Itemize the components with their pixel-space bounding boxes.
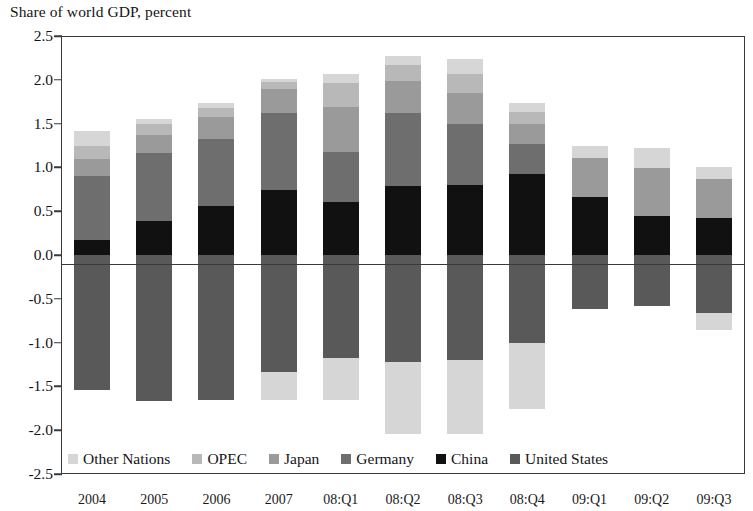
- legend-item[interactable]: Other Nations: [68, 450, 170, 468]
- bar-segment[interactable]: [323, 107, 359, 152]
- bar-segment[interactable]: [323, 83, 359, 107]
- legend-swatch-icon: [341, 454, 351, 464]
- bar-segment[interactable]: [509, 144, 545, 174]
- bar-segment[interactable]: [74, 131, 110, 146]
- x-axis-tick-label: 08:Q4: [510, 492, 545, 508]
- legend-item[interactable]: China: [436, 450, 488, 468]
- legend-item[interactable]: United States: [510, 450, 608, 468]
- legend-label: China: [451, 450, 488, 468]
- x-axis-tick-label: 08:Q2: [386, 492, 421, 508]
- bar-group[interactable]: [136, 36, 172, 474]
- chart-figure: Share of world GDP, percent 2.52.01.51.0…: [0, 0, 753, 511]
- bar-segment[interactable]: [136, 153, 172, 220]
- bar-segment[interactable]: [447, 93, 483, 124]
- legend-item[interactable]: OPEC: [192, 450, 247, 468]
- bar-segment[interactable]: [261, 255, 297, 372]
- bar-segment[interactable]: [136, 119, 172, 124]
- y-axis-tick-label: -1.5: [7, 377, 53, 395]
- bar-segment[interactable]: [198, 139, 234, 206]
- bar-segment[interactable]: [447, 255, 483, 360]
- bar-segment[interactable]: [323, 202, 359, 255]
- bar-segment[interactable]: [385, 81, 421, 113]
- chart-legend: Other NationsOPECJapanGermanyChinaUnited…: [68, 448, 630, 470]
- x-axis-tick-label: 2004: [78, 492, 106, 508]
- bar-segment[interactable]: [74, 255, 110, 390]
- bar-segment[interactable]: [74, 159, 110, 177]
- bar-group[interactable]: [696, 36, 732, 474]
- bar-group[interactable]: [261, 36, 297, 474]
- legend-item[interactable]: Germany: [341, 450, 414, 468]
- bar-segment[interactable]: [447, 124, 483, 185]
- bar-segment[interactable]: [385, 113, 421, 186]
- bar-group[interactable]: [572, 36, 608, 474]
- bar-segment[interactable]: [447, 74, 483, 93]
- bar-segment[interactable]: [572, 197, 608, 255]
- y-axis-tick-label: -2.5: [7, 465, 53, 483]
- bar-segment[interactable]: [509, 174, 545, 255]
- legend-swatch-icon: [436, 454, 446, 464]
- bar-segment[interactable]: [136, 124, 172, 135]
- bar-segment[interactable]: [261, 82, 297, 89]
- x-axis: 200420052006200708:Q108:Q208:Q308:Q409:Q…: [61, 492, 745, 511]
- bar-group[interactable]: [323, 36, 359, 474]
- y-axis-tick-label: 2.0: [7, 71, 53, 89]
- bar-segment[interactable]: [509, 103, 545, 113]
- bar-segment[interactable]: [74, 176, 110, 240]
- legend-item[interactable]: Japan: [269, 450, 319, 468]
- bar-segment[interactable]: [323, 74, 359, 84]
- bar-group[interactable]: [634, 36, 670, 474]
- bar-segment[interactable]: [198, 103, 234, 108]
- bar-segment[interactable]: [323, 358, 359, 399]
- bar-segment[interactable]: [136, 135, 172, 153]
- bar-segment[interactable]: [634, 148, 670, 168]
- y-axis-tick-label: 1.5: [7, 115, 53, 133]
- bar-segment[interactable]: [198, 206, 234, 255]
- bar-segment[interactable]: [385, 186, 421, 255]
- bar-segment[interactable]: [136, 221, 172, 255]
- bar-segment[interactable]: [634, 216, 670, 255]
- bar-segment[interactable]: [509, 124, 545, 143]
- bar-segment[interactable]: [385, 56, 421, 65]
- legend-swatch-icon: [192, 454, 202, 464]
- plot-area: [61, 36, 745, 474]
- bar-group[interactable]: [447, 36, 483, 474]
- bar-group[interactable]: [509, 36, 545, 474]
- bar-segment[interactable]: [447, 59, 483, 74]
- bar-segment[interactable]: [198, 108, 234, 118]
- bar-segment[interactable]: [385, 65, 421, 81]
- bar-segment[interactable]: [323, 152, 359, 202]
- bar-segment[interactable]: [198, 255, 234, 400]
- x-axis-tick-label: 09:Q1: [572, 492, 607, 508]
- bar-segment[interactable]: [136, 255, 172, 401]
- bar-segment[interactable]: [509, 255, 545, 343]
- bar-segment[interactable]: [385, 362, 421, 434]
- bar-segment[interactable]: [572, 158, 608, 197]
- bar-group[interactable]: [74, 36, 110, 474]
- bar-segment[interactable]: [74, 240, 110, 255]
- bar-segment[interactable]: [509, 112, 545, 124]
- bar-segment[interactable]: [385, 255, 421, 362]
- bar-segment[interactable]: [447, 185, 483, 255]
- bar-segment[interactable]: [696, 218, 732, 255]
- bar-segment[interactable]: [696, 167, 732, 179]
- bar-segment[interactable]: [447, 360, 483, 434]
- bar-segment[interactable]: [509, 343, 545, 410]
- bar-segment[interactable]: [634, 168, 670, 216]
- bar-segment[interactable]: [261, 89, 297, 113]
- y-axis-tick-label: -1.0: [7, 334, 53, 352]
- bar-segment[interactable]: [198, 117, 234, 139]
- x-axis-tick-label: 09:Q3: [696, 492, 731, 508]
- bar-segment[interactable]: [572, 146, 608, 157]
- bar-segment[interactable]: [261, 190, 297, 255]
- bar-segment[interactable]: [696, 313, 732, 331]
- bar-segment[interactable]: [261, 372, 297, 401]
- bar-segment[interactable]: [261, 113, 297, 190]
- x-axis-tick-label: 09:Q2: [634, 492, 669, 508]
- bar-segment[interactable]: [323, 255, 359, 358]
- bar-segment[interactable]: [74, 146, 110, 158]
- bar-segment[interactable]: [696, 179, 732, 218]
- y-axis-tick-label: -2.0: [7, 421, 53, 439]
- bar-segment[interactable]: [261, 79, 297, 83]
- bar-group[interactable]: [198, 36, 234, 474]
- bar-group[interactable]: [385, 36, 421, 474]
